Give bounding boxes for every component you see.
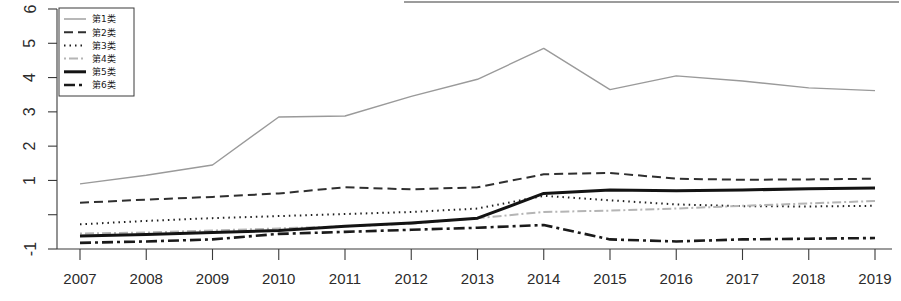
x-tick-label: 2016 [660, 270, 693, 287]
x-tick-label: 2011 [329, 270, 361, 287]
y-tick-label: 1 [22, 176, 39, 185]
x-tick-label: 2014 [527, 270, 560, 287]
x-tick-label: 2012 [395, 270, 428, 287]
legend-label-5: 第5类 [92, 66, 116, 77]
x-tick-label: 2007 [63, 270, 96, 287]
x-axis-tick-labels: 2007200820092010201120122013201420152016… [63, 270, 891, 287]
legend-label-3: 第3类 [92, 40, 116, 51]
y-axis-ticks [48, 9, 57, 249]
x-tick-label: 2017 [726, 270, 759, 287]
x-tick-label: 2019 [858, 270, 891, 287]
series-line-1 [80, 48, 875, 183]
x-tick-label: 2009 [196, 270, 229, 287]
x-axis-ticks [80, 249, 875, 260]
series-line-2 [80, 173, 875, 203]
x-tick-label: 2010 [262, 270, 295, 287]
chart-svg: 654321-1 2007200820092010201120122013201… [0, 0, 901, 301]
line-chart-figure: 654321-1 2007200820092010201120122013201… [0, 0, 901, 301]
x-tick-label: 2013 [461, 270, 494, 287]
plot-frame [57, 2, 899, 249]
y-tick-label: 3 [22, 107, 39, 116]
x-tick-label: 2008 [130, 270, 163, 287]
legend-label-4: 第4类 [92, 53, 116, 64]
series-line-3 [80, 196, 875, 224]
legend-label-2: 第2类 [92, 27, 116, 38]
data-series-group [80, 48, 875, 242]
legend-label-1: 第1类 [92, 13, 116, 24]
legend-label-6: 第6类 [92, 79, 116, 90]
y-tick-label: 2 [22, 142, 39, 151]
y-axis-tick-labels: 654321-1 [22, 4, 39, 256]
y-tick-label: 5 [22, 39, 39, 48]
y-tick-label: 6 [22, 4, 39, 13]
x-tick-label: 2018 [792, 270, 825, 287]
y-tick-label: 4 [22, 73, 39, 82]
y-tick-label: -1 [22, 242, 39, 256]
chart-legend: 第1类第2类第3类第4类第5类第6类 [59, 8, 134, 96]
x-tick-label: 2015 [593, 270, 626, 287]
